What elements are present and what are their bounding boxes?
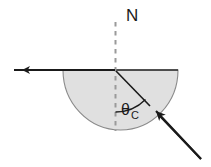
critical-angle-subscript-label: C bbox=[131, 109, 139, 121]
critical-angle-symbol-label: θ bbox=[121, 101, 130, 118]
diagram-canvas: N θ C bbox=[0, 0, 211, 167]
semicircular-medium-shape bbox=[63, 70, 178, 130]
optics-diagram-figure: N θ C bbox=[0, 0, 211, 167]
normal-label: N bbox=[126, 6, 138, 25]
incident-ray bbox=[156, 111, 201, 159]
